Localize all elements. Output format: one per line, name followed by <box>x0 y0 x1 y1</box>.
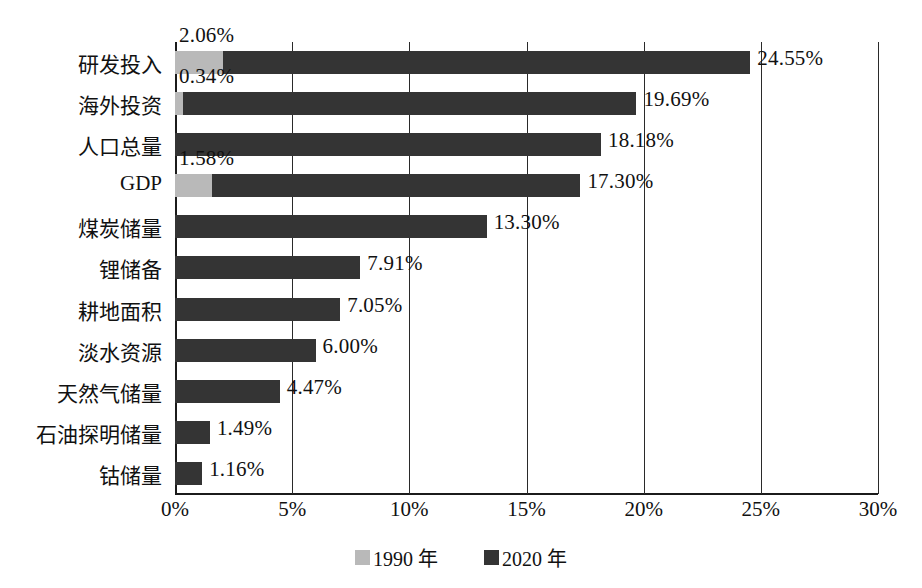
legend-label: 2020 年 <box>502 543 567 572</box>
stacked-bar[interactable] <box>175 174 580 197</box>
bar-value-label: 6.00% <box>323 334 378 359</box>
category-label: 耕地面积 <box>0 295 162 325</box>
stacked-bar[interactable] <box>175 215 487 238</box>
x-tick-label: 15% <box>487 497 567 522</box>
gridline-30 <box>878 42 879 494</box>
category-label: 钴储量 <box>0 459 162 489</box>
category-label: 石油探明储量 <box>0 418 162 448</box>
bar-value-label: 1.16% <box>209 457 264 482</box>
bar-value-label-1990: 2.06% <box>179 23 234 48</box>
bar-value-label: 19.69% <box>643 87 709 112</box>
bar-segment-1990[interactable] <box>175 174 212 197</box>
bar-row: 13.30% <box>175 206 878 247</box>
legend-swatch-icon <box>355 550 370 565</box>
bar-segment-2020[interactable] <box>175 380 280 403</box>
stacked-bar[interactable] <box>175 462 202 485</box>
bar-value-label-1990: 1.58% <box>179 146 234 171</box>
stacked-bar[interactable] <box>175 51 750 74</box>
bar-row: 7.05% <box>175 289 878 330</box>
bar-row: 19.69%0.34% <box>175 83 878 124</box>
bar-row: 17.30%1.58% <box>175 165 878 206</box>
category-label: 海外投资 <box>0 89 162 119</box>
legend-swatch-icon <box>484 550 499 565</box>
stacked-bar[interactable] <box>175 92 636 115</box>
bar-segment-2020[interactable] <box>175 298 340 321</box>
plot-area: 24.55%2.06%19.69%0.34%18.18%17.30%1.58%1… <box>175 42 878 494</box>
category-label: 淡水资源 <box>0 336 162 366</box>
x-tick-label: 20% <box>604 497 684 522</box>
category-label: 煤炭储量 <box>0 212 162 242</box>
bar-row: 1.16% <box>175 453 878 494</box>
bar-row: 18.18% <box>175 124 878 165</box>
bar-value-label: 4.47% <box>287 375 342 400</box>
bar-row: 1.49% <box>175 412 878 453</box>
stacked-bar[interactable] <box>175 380 280 403</box>
bar-segment-2020[interactable] <box>175 462 202 485</box>
category-label: GDP <box>0 171 162 196</box>
bar-segment-2020[interactable] <box>175 133 601 156</box>
bar-value-label: 18.18% <box>608 128 674 153</box>
category-label: 研发投入 <box>0 48 162 78</box>
x-tick-label: 25% <box>721 497 801 522</box>
x-tick-label: 5% <box>252 497 332 522</box>
legend-item[interactable]: 2020 年 <box>484 543 567 572</box>
category-label: 天然气储量 <box>0 377 162 407</box>
stacked-bar[interactable] <box>175 133 601 156</box>
bar-segment-2020[interactable] <box>175 339 316 362</box>
bar-segment-2020[interactable] <box>183 92 636 115</box>
x-axis-tick-labels: 0%5%10%15%20%25%30% <box>0 497 922 529</box>
bar-segment-2020[interactable] <box>175 421 210 444</box>
legend-label: 1990 年 <box>373 543 438 572</box>
category-label: 人口总量 <box>0 130 162 160</box>
stacked-bar[interactable] <box>175 256 360 279</box>
stacked-bar[interactable] <box>175 339 316 362</box>
category-label: 锂储备 <box>0 253 162 283</box>
bar-row: 7.91% <box>175 247 878 288</box>
bar-value-label: 24.55% <box>757 46 823 71</box>
legend-item[interactable]: 1990 年 <box>355 543 438 572</box>
x-tick-label: 30% <box>838 497 918 522</box>
bar-segment-2020[interactable] <box>175 256 360 279</box>
bar-segment-1990[interactable] <box>175 92 183 115</box>
bar-row: 6.00% <box>175 330 878 371</box>
bar-value-label: 13.30% <box>494 210 560 235</box>
stacked-bar[interactable] <box>175 298 340 321</box>
bar-rows: 24.55%2.06%19.69%0.34%18.18%17.30%1.58%1… <box>175 42 878 494</box>
bar-segment-2020[interactable] <box>175 215 487 238</box>
bar-segment-2020[interactable] <box>212 174 580 197</box>
bar-row: 4.47% <box>175 371 878 412</box>
bar-chart: 研发投入海外投资人口总量GDP煤炭储量锂储备耕地面积淡水资源天然气储量石油探明储… <box>0 0 922 588</box>
x-tick-label: 0% <box>135 497 215 522</box>
category-axis-labels: 研发投入海外投资人口总量GDP煤炭储量锂储备耕地面积淡水资源天然气储量石油探明储… <box>0 42 170 494</box>
bar-value-label: 17.30% <box>587 169 653 194</box>
bar-value-label: 1.49% <box>217 416 272 441</box>
bar-value-label: 7.91% <box>367 251 422 276</box>
chart-legend: 1990 年2020 年 <box>0 540 922 574</box>
x-tick-label: 10% <box>369 497 449 522</box>
bar-segment-2020[interactable] <box>223 51 750 74</box>
bar-row: 24.55%2.06% <box>175 42 878 83</box>
bar-value-label: 7.05% <box>347 293 402 318</box>
bar-value-label-1990: 0.34% <box>179 64 234 89</box>
stacked-bar[interactable] <box>175 421 210 444</box>
